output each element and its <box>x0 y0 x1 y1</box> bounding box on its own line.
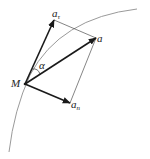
label-m: M <box>10 77 21 89</box>
vector-a-n <box>25 84 70 103</box>
acceleration-diagram: M α aτ a an <box>0 0 150 159</box>
point-m <box>24 83 27 86</box>
label-alpha: α <box>39 59 45 71</box>
label-a-tau: aτ <box>52 7 61 21</box>
guide-line-a-to-an <box>70 38 96 103</box>
label-a: a <box>97 32 103 44</box>
trajectory-curve <box>9 9 137 152</box>
guide-line-atau-to-a <box>54 20 96 38</box>
label-a-n: an <box>71 98 81 112</box>
